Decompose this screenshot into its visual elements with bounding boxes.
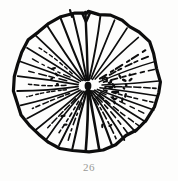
solid-ray: [17, 87, 78, 91]
figure-number-label: 26: [83, 161, 95, 173]
figure-caption: 26: [0, 160, 178, 181]
radiate-specimen-drawing: [0, 0, 178, 160]
dashed-ray: [95, 98, 117, 139]
stipple-dot: [121, 78, 127, 83]
stipple-dot: [124, 93, 128, 98]
rim-tick-icon: [70, 10, 72, 17]
figure-illustration: [0, 0, 178, 160]
solid-ray: [100, 88, 158, 96]
dashed-ray: [100, 49, 147, 79]
solid-ray: [73, 14, 87, 81]
center-convergence-point: [85, 82, 92, 90]
dashed-ray: [26, 84, 66, 86]
solid-ray: [86, 90, 88, 150]
figure-plate: 26: [0, 0, 178, 181]
stipple-dot: [128, 77, 133, 82]
